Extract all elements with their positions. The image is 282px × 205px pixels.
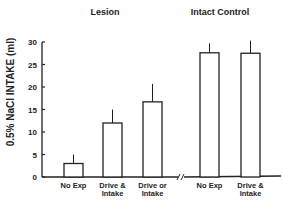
y-tick-label: 25 xyxy=(28,61,37,70)
bar xyxy=(103,123,122,177)
y-tick-label: 5 xyxy=(33,151,38,160)
bar xyxy=(64,164,83,178)
x-axis-line xyxy=(184,176,281,177)
bar xyxy=(200,53,219,177)
bar xyxy=(241,53,260,177)
group-title: Intact Control xyxy=(191,7,250,17)
y-tick-label: 15 xyxy=(28,106,37,115)
y-tick-label: 0 xyxy=(33,173,38,182)
group-title: Lesion xyxy=(90,7,119,17)
x-tick-label: No Exp xyxy=(61,181,87,190)
y-tick-label: 10 xyxy=(28,128,37,137)
y-tick-label: 30 xyxy=(28,38,37,47)
y-axis-label: 0.5% NaCl INTAKE (ml) xyxy=(5,38,16,147)
axis-break-mark xyxy=(181,174,184,180)
bar-chart: LesionIntact Control 051015202530 No Exp… xyxy=(0,0,282,205)
x-tick-label: Intake xyxy=(142,189,164,198)
bar xyxy=(143,102,162,177)
x-tick-label: Intake xyxy=(240,189,262,198)
x-tick-label: Intake xyxy=(102,189,124,198)
y-tick-label: 20 xyxy=(28,83,37,92)
x-tick-label: No Exp xyxy=(197,181,223,190)
